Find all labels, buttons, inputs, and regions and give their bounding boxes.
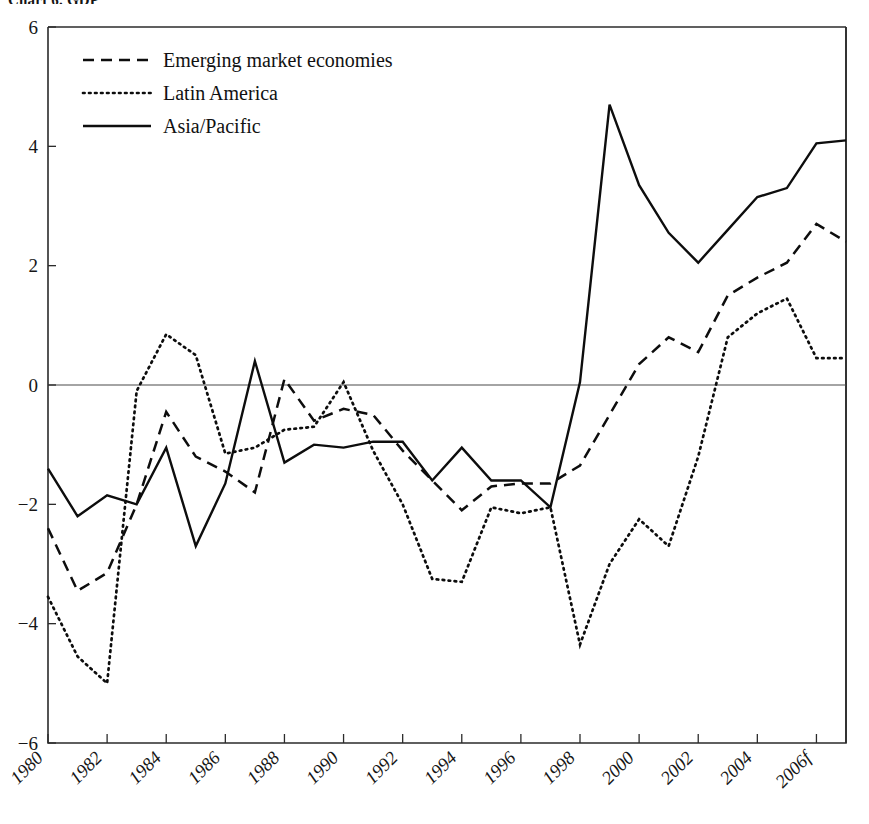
y-axis-tick-label: 0 xyxy=(29,375,39,396)
x-axis-tick-label: 1996 xyxy=(479,747,520,788)
series-line-dashed xyxy=(48,224,846,591)
line-chart-plot: 6420−2−4−6198019821984198619881990199219… xyxy=(0,0,869,824)
x-axis-tick-label: 1990 xyxy=(302,747,343,788)
y-axis-tick-label: −4 xyxy=(18,613,39,634)
x-axis-tick-label: 2006f xyxy=(771,746,817,792)
series-line-dotted xyxy=(48,298,846,683)
legend-label-latin: Latin America xyxy=(163,82,278,104)
x-axis-tick-label: 1980 xyxy=(7,747,48,788)
legend-label-emerging: Emerging market economies xyxy=(163,49,393,72)
legend-label-asia: Asia/Pacific xyxy=(163,115,261,137)
x-axis-tick-label: 1994 xyxy=(420,748,460,788)
y-axis-tick-label: 4 xyxy=(29,136,39,157)
x-axis-tick-label: 1988 xyxy=(243,747,284,788)
series-line-solid xyxy=(48,105,846,547)
x-axis-tick-label: 1992 xyxy=(361,748,401,788)
x-axis-tick-label: 2000 xyxy=(598,747,639,788)
x-axis-tick-label: 1984 xyxy=(125,748,165,788)
y-axis-tick-label: −2 xyxy=(18,494,38,515)
y-axis-tick-label: 6 xyxy=(29,17,39,38)
x-axis-tick-label: 2004 xyxy=(716,748,756,788)
x-axis-tick-label: 1986 xyxy=(184,747,225,788)
y-axis-tick-label: 2 xyxy=(29,255,39,276)
x-axis-tick-label: 1982 xyxy=(66,748,106,788)
chart-container: Chart 6. GDP 6420−2−4−619801982198419861… xyxy=(0,0,869,824)
x-axis-tick-label: 1998 xyxy=(539,747,580,788)
x-axis-tick-label: 2002 xyxy=(657,748,697,788)
